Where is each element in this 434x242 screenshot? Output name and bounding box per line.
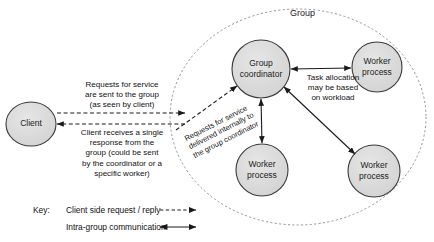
worker-bottom-right-node-shape[interactable]	[348, 145, 400, 197]
annotation-task-allocation: Task allocation may be based on workload	[295, 73, 371, 104]
coordinator-node-shape[interactable]	[232, 40, 290, 98]
client-node-shape[interactable]	[6, 102, 56, 146]
diagram-canvas: Group Client Group coordinator Worker pr…	[0, 0, 434, 242]
worker-bottom-left-node-shape[interactable]	[236, 144, 288, 196]
key-title: Key:	[33, 205, 50, 215]
annotation-single-response: Client receives a single response from t…	[55, 128, 189, 179]
key-item-intra-group-communication: Intra-group communication	[66, 222, 166, 232]
annotation-request-to-group: Requests for service are sent to the gro…	[62, 80, 182, 111]
key-item-client-request-reply: Client side request / reply	[66, 205, 161, 215]
group-title: Group	[290, 8, 315, 18]
edge-coordinator-worker-top-right	[291, 68, 351, 69]
